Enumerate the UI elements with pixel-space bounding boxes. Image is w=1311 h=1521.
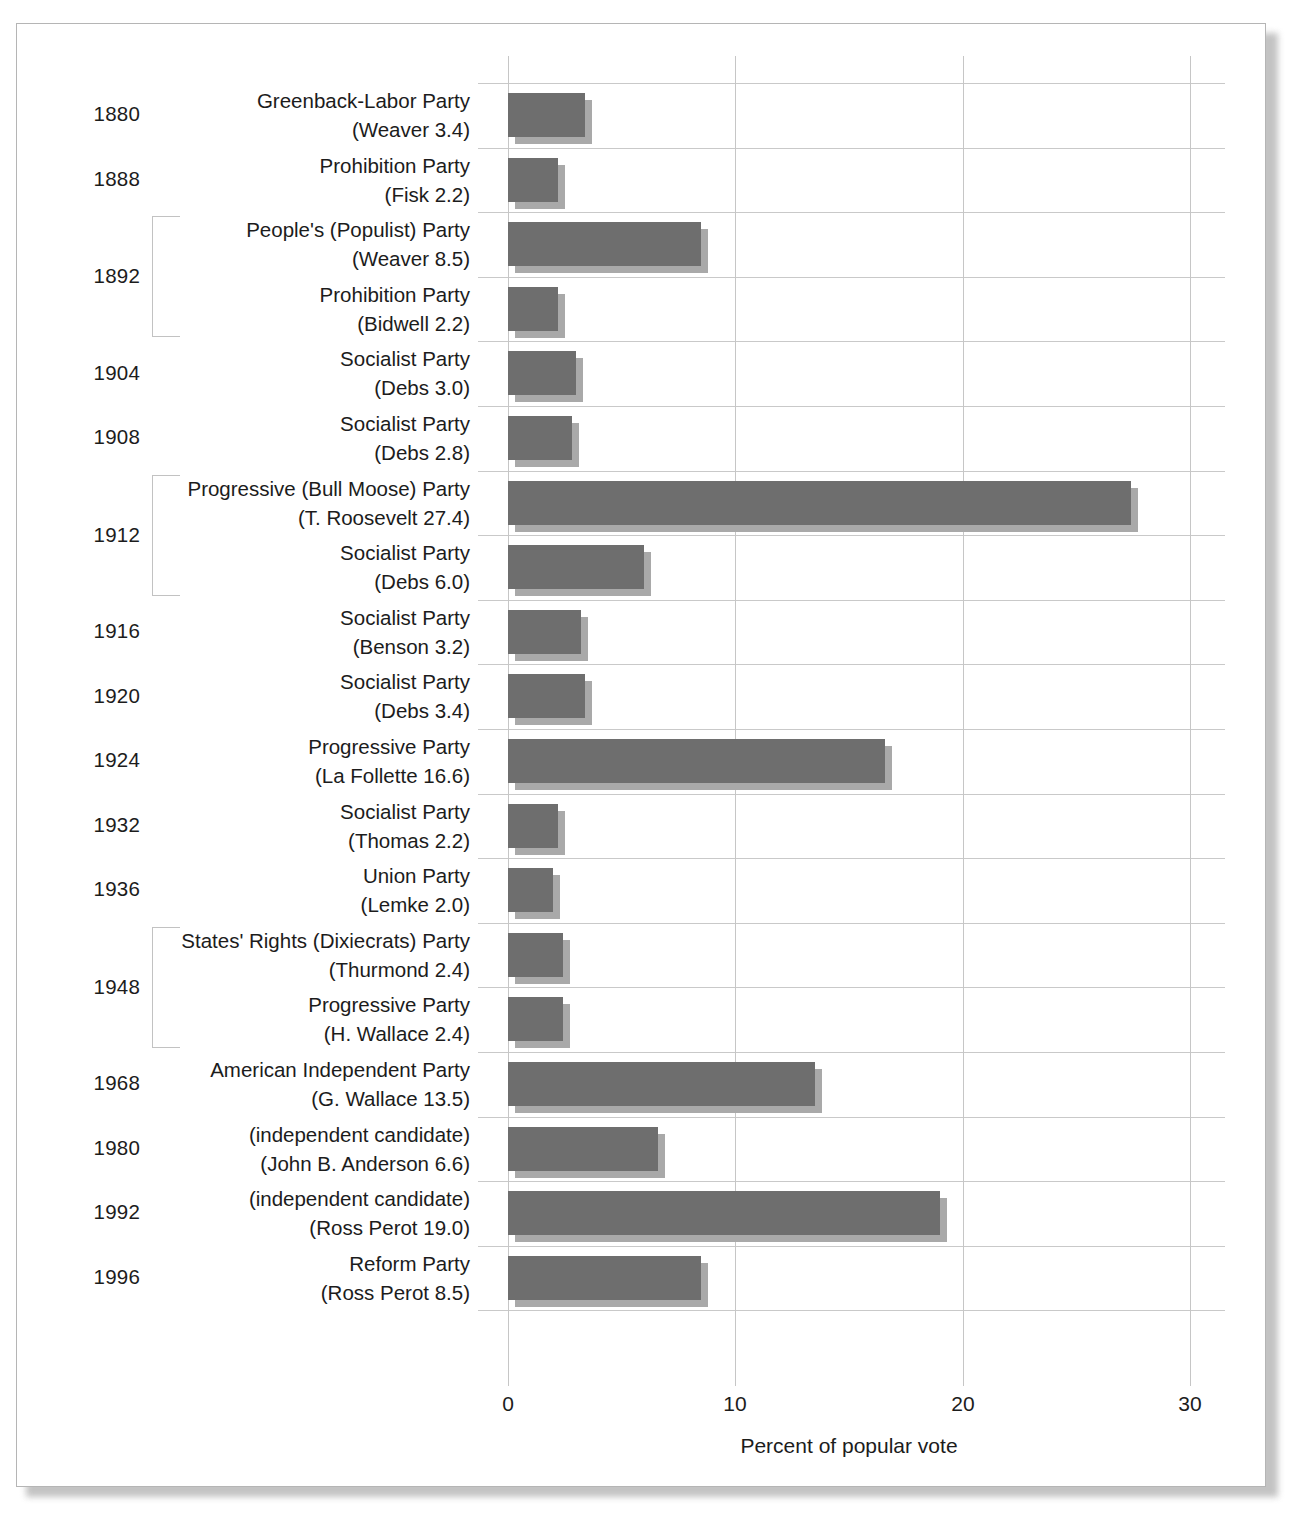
bar[interactable] (508, 739, 885, 783)
bar[interactable] (508, 287, 558, 331)
gridline-horizontal (478, 923, 1225, 924)
bar[interactable] (508, 997, 563, 1041)
year-label: 1908 (20, 425, 140, 449)
year-label: 1904 (20, 361, 140, 385)
year-label: 1936 (20, 877, 140, 901)
year-group-bracket (152, 475, 180, 596)
gridline-horizontal (478, 729, 1225, 730)
gridline-horizontal (478, 664, 1225, 665)
bar[interactable] (508, 1191, 940, 1235)
year-label-grouped: 1948 (20, 975, 140, 999)
year-label: 1880 (20, 102, 140, 126)
row-label: Socialist Party(Debs 6.0) (50, 538, 470, 596)
candidate-and-value: (Debs 6.0) (50, 567, 470, 596)
x-tick-label: 30 (1155, 1392, 1225, 1416)
year-label: 1968 (20, 1071, 140, 1095)
gridline-horizontal (478, 341, 1225, 342)
gridline-horizontal (478, 148, 1225, 149)
year-label-grouped: 1892 (20, 264, 140, 288)
gridline-horizontal (478, 600, 1225, 601)
gridline-horizontal (478, 794, 1225, 795)
year-label: 1888 (20, 167, 140, 191)
bar[interactable] (508, 1256, 701, 1300)
gridline-horizontal (478, 535, 1225, 536)
bar[interactable] (508, 804, 558, 848)
gridline-horizontal (478, 83, 1225, 84)
x-tick-label: 0 (473, 1392, 543, 1416)
gridline-vertical-20 (963, 56, 964, 1386)
chart-screenshot: 0102030Greenback-Labor Party(Weaver 3.4)… (0, 0, 1311, 1521)
x-axis-title: Percent of popular vote (508, 1434, 1190, 1458)
bar[interactable] (508, 416, 572, 460)
year-label: 1992 (20, 1200, 140, 1224)
x-tick-label: 10 (700, 1392, 770, 1416)
year-label: 1980 (20, 1136, 140, 1160)
party-name: States' Rights (Dixiecrats) Party (50, 926, 470, 955)
gridline-horizontal (478, 1246, 1225, 1247)
gridline-horizontal (478, 987, 1225, 988)
row-label: Prohibition Party(Bidwell 2.2) (50, 280, 470, 338)
bar[interactable] (508, 93, 585, 137)
year-group-bracket (152, 216, 180, 337)
year-label: 1996 (20, 1265, 140, 1289)
candidate-and-value: (Bidwell 2.2) (50, 309, 470, 338)
bar[interactable] (508, 933, 563, 977)
party-name: People's (Populist) Party (50, 215, 470, 244)
gridline-vertical-30 (1190, 56, 1191, 1386)
x-tick-label: 20 (928, 1392, 998, 1416)
year-label: 1920 (20, 684, 140, 708)
gridline-horizontal (478, 406, 1225, 407)
bar[interactable] (508, 351, 576, 395)
candidate-and-value: (H. Wallace 2.4) (50, 1019, 470, 1048)
bar[interactable] (508, 158, 558, 202)
gridline-horizontal (478, 1310, 1225, 1311)
bar[interactable] (508, 481, 1131, 525)
party-name: Progressive (Bull Moose) Party (50, 474, 470, 503)
bar[interactable] (508, 868, 553, 912)
gridline-horizontal (478, 1181, 1225, 1182)
bar[interactable] (508, 674, 585, 718)
year-label: 1924 (20, 748, 140, 772)
gridline-vertical-10 (735, 56, 736, 1386)
bar[interactable] (508, 610, 581, 654)
popular-vote-bar-chart: 0102030Greenback-Labor Party(Weaver 3.4)… (0, 0, 1311, 1521)
year-label: 1916 (20, 619, 140, 643)
gridline-horizontal (478, 212, 1225, 213)
row-label: Progressive Party(H. Wallace 2.4) (50, 990, 470, 1048)
gridline-horizontal (478, 277, 1225, 278)
year-label: 1932 (20, 813, 140, 837)
gridline-horizontal (478, 858, 1225, 859)
gridline-horizontal (478, 471, 1225, 472)
bar[interactable] (508, 1127, 658, 1171)
bar[interactable] (508, 1062, 815, 1106)
year-label-grouped: 1912 (20, 523, 140, 547)
year-group-bracket (152, 927, 180, 1048)
gridline-horizontal (478, 1052, 1225, 1053)
bar[interactable] (508, 545, 644, 589)
bar[interactable] (508, 222, 701, 266)
gridline-horizontal (478, 1117, 1225, 1118)
